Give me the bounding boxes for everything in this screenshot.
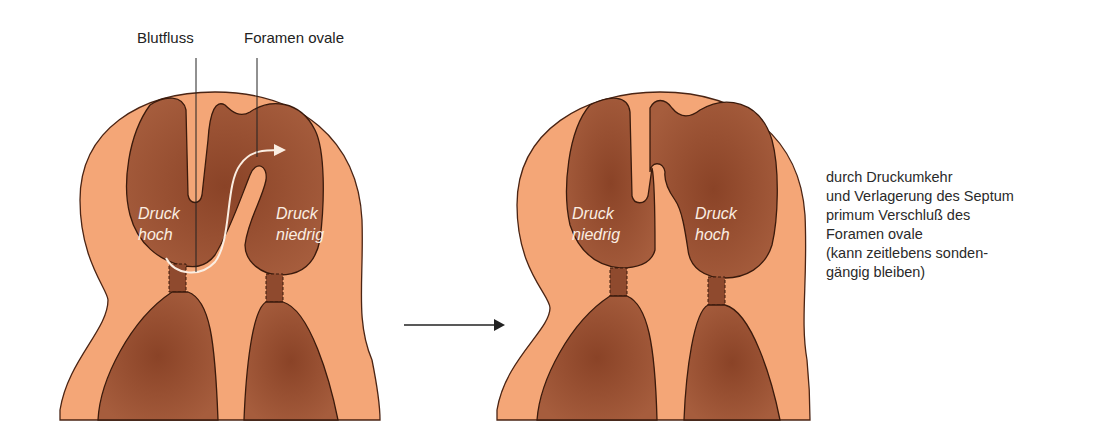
caption-line: Foramen ovale xyxy=(826,225,1014,244)
left-panel-right-pressure-line2: niedrig xyxy=(276,226,324,243)
right-panel-right-pressure-line1: Druck xyxy=(695,205,738,222)
right-panel-left-valve xyxy=(610,268,627,296)
caption-line: und Verlagerung des Septum xyxy=(826,187,1014,206)
left-panel-right-valve xyxy=(266,274,283,302)
right-panel-left-pressure-line2: niedrig xyxy=(572,226,620,243)
right-heart-diagram: Druck niedrig Druck hoch xyxy=(497,92,810,420)
right-panel-right-valve xyxy=(708,277,725,305)
left-panel-left-pressure-line2: hoch xyxy=(138,226,173,243)
caption-line: primum Verschluß des xyxy=(826,206,1014,225)
right-panel-left-pressure-line1: Druck xyxy=(572,205,615,222)
label-blutfluss: Blutfluss xyxy=(137,29,194,46)
label-foramen-ovale: Foramen ovale xyxy=(244,29,344,46)
left-panel-right-pressure-line1: Druck xyxy=(276,205,319,222)
caption-line: gängig bleiben) xyxy=(826,263,1014,282)
caption-line: durch Druckumkehr xyxy=(826,168,1014,187)
caption-text: durch Druckumkehr und Verlagerung des Se… xyxy=(826,168,1014,282)
left-panel-left-pressure-line1: Druck xyxy=(138,205,181,222)
right-panel-right-pressure-line2: hoch xyxy=(695,226,730,243)
left-panel-left-valve xyxy=(169,264,186,292)
left-heart-diagram: Blutfluss Foramen ovale Druck hoch Druck… xyxy=(60,29,380,420)
transition-arrow-icon xyxy=(404,319,505,331)
caption-line: (kann zeitlebens sonden- xyxy=(826,244,1014,263)
